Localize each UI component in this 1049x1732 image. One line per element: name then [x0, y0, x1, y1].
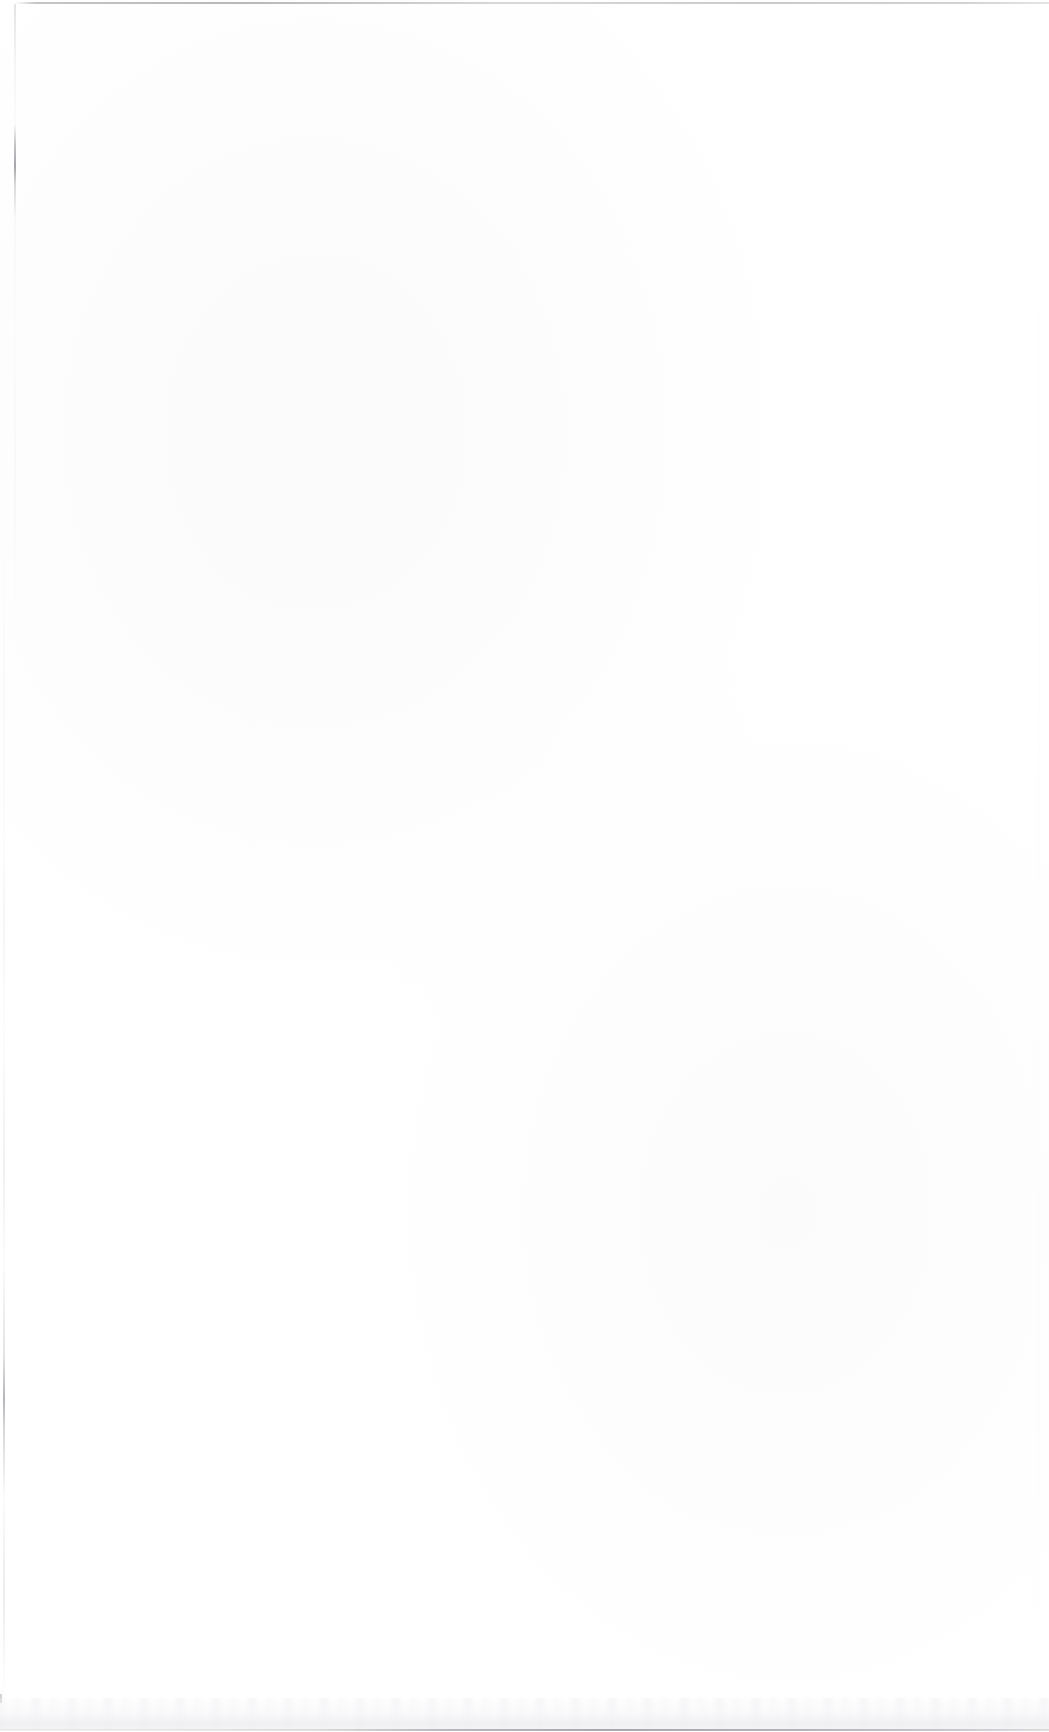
bottom-edge-rule: [0, 1729, 1049, 1731]
page-content-area: [90, 110, 970, 1640]
left-gutter-shadow-upper: [14, 4, 16, 604]
scanned-page: [0, 0, 1049, 1732]
top-edge-rule: [15, 2, 1049, 4]
right-edge-line: [1038, 0, 1039, 1732]
left-gutter-shadow-lower: [3, 560, 5, 1732]
bottom-scan-band: [0, 1698, 1049, 1730]
